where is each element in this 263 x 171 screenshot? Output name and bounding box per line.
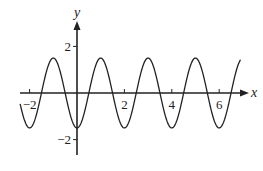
x-tick-label: −2 [23, 97, 37, 112]
x-tick-label: 2 [121, 97, 128, 112]
x-axis-label: x [250, 85, 258, 100]
x-tick-label: 6 [216, 97, 223, 112]
axes [20, 21, 249, 155]
y-axis-arrow-icon [74, 21, 81, 30]
y-axis-label: y [72, 5, 81, 20]
x-axis-arrow-icon [240, 90, 249, 97]
y-tick-label: −2 [57, 132, 71, 147]
x-tick-label: 4 [169, 97, 176, 112]
y-tick-label: 2 [65, 39, 72, 54]
sinusoid-graph: x y −22462−2 [0, 0, 263, 171]
